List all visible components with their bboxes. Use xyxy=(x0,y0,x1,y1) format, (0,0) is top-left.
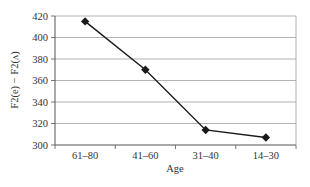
x-tick-label: 61–80 xyxy=(72,150,98,161)
data-series xyxy=(81,17,270,142)
y-tick-label: 320 xyxy=(32,118,48,129)
y-tick-label: 340 xyxy=(32,97,48,108)
y-tick-label: 420 xyxy=(32,11,48,22)
y-axis-title: F2(e) − F2(ʌ) xyxy=(9,51,21,109)
y-tick-label: 300 xyxy=(32,140,48,151)
y-axis-ticks: 300320340360380400420 xyxy=(32,11,55,151)
x-tick-label: 31–40 xyxy=(193,150,219,161)
line-chart: 300320340360380400420 61–8041–6031–4014–… xyxy=(0,0,310,187)
x-tick-label: 41–60 xyxy=(132,150,158,161)
y-tick-label: 400 xyxy=(32,32,48,43)
x-tick-label: 14–30 xyxy=(253,150,279,161)
y-tick-label: 360 xyxy=(32,75,48,86)
x-axis-title: Age xyxy=(166,163,184,174)
y-tick-label: 380 xyxy=(32,54,48,65)
diamond-marker xyxy=(262,133,270,141)
series-line xyxy=(85,21,266,137)
x-axis-ticks: 61–8041–6031–4014–30 xyxy=(55,145,296,161)
gridlines xyxy=(55,16,296,124)
